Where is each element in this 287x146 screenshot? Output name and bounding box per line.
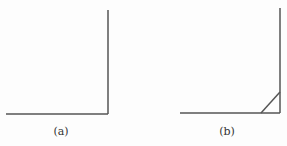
- panel-a: [6, 10, 108, 114]
- panel-a-label: (a): [41, 125, 81, 138]
- panel-b-label: (b): [207, 125, 247, 138]
- panel-b: [180, 8, 280, 113]
- panel-b-diagonal-brace: [261, 92, 280, 113]
- figure: (a) (b): [0, 0, 287, 146]
